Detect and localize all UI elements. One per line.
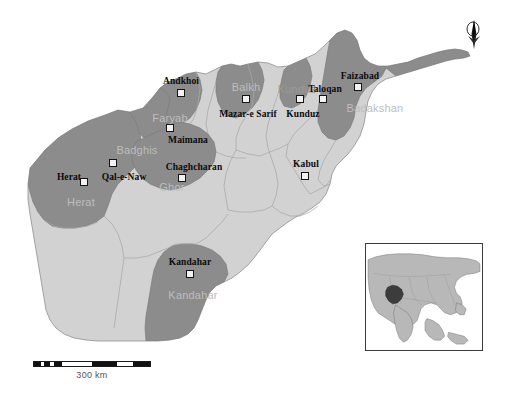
scale-bar: 300 km: [33, 361, 151, 380]
scale-seg-9: [133, 362, 150, 366]
scale-seg-1: [34, 362, 41, 366]
scale-seg-5: [54, 362, 62, 366]
scale-bar-caption: 300 km: [33, 370, 151, 380]
scale-seg-7: [92, 362, 118, 366]
scale-seg-6: [62, 362, 92, 366]
asia-locator-inset[interactable]: [365, 243, 483, 351]
scale-bar-track: [33, 361, 151, 367]
afghanistan-map: Faryab Balkh Kunduz Badakshan Badghis Gh…: [0, 0, 513, 398]
north-arrow-icon: [462, 18, 486, 52]
scale-seg-8: [117, 362, 132, 366]
inset-map-canvas: [366, 244, 482, 350]
